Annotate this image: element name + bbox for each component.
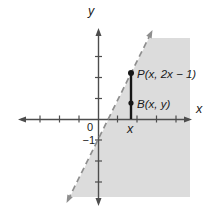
point-b-label: B(x, y) [137, 98, 170, 110]
point-p-dot [128, 70, 134, 76]
x-foot-label: x [126, 122, 134, 136]
coordinate-plane-figure: y x 0 −1 x P(x, 2x − 1) B(x, y) [0, 0, 207, 217]
dashed-line-top-arrowhead-icon [146, 29, 155, 39]
y-axis-top-arrowhead-icon [96, 28, 102, 36]
x-axis-label: x [195, 102, 203, 116]
point-p-label: P(x, 2x − 1) [137, 68, 196, 80]
point-b-dot [128, 100, 133, 105]
y-axis-bottom-arrowhead-icon [96, 198, 102, 206]
neg-one-label: −1 [82, 134, 95, 146]
x-axis-left-arrowhead-icon [18, 117, 26, 123]
y-axis-label: y [87, 4, 95, 18]
origin-label: 0 [87, 121, 93, 133]
